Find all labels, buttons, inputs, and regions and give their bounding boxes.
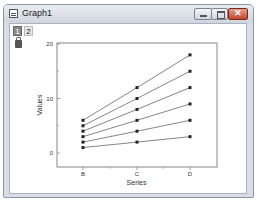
data-point: [189, 53, 192, 56]
data-point: [136, 97, 139, 100]
data-point: [82, 146, 85, 149]
y-tick-label: 20: [46, 41, 53, 47]
data-point: [136, 119, 139, 122]
data-point: [189, 119, 192, 122]
y-axis-title: Values: [36, 94, 43, 115]
line-chart: 01020BCDSeriesValues: [0, 0, 259, 203]
data-point: [136, 130, 139, 133]
y-tick-label: 10: [46, 96, 53, 102]
y-tick-label: 0: [50, 150, 54, 156]
plot-frame: [57, 43, 217, 167]
x-tick-label: C: [135, 171, 140, 177]
data-point: [189, 70, 192, 73]
data-point: [82, 141, 85, 144]
data-point: [189, 102, 192, 105]
data-point: [82, 124, 85, 127]
x-axis-title: Series: [127, 179, 147, 186]
data-point: [136, 86, 139, 89]
data-point: [82, 130, 85, 133]
data-point: [136, 141, 139, 144]
data-point: [136, 108, 139, 111]
data-point: [82, 135, 85, 138]
data-point: [189, 86, 192, 89]
x-tick-label: B: [81, 171, 85, 177]
data-point: [189, 135, 192, 138]
x-tick-label: D: [188, 171, 193, 177]
data-point: [82, 119, 85, 122]
